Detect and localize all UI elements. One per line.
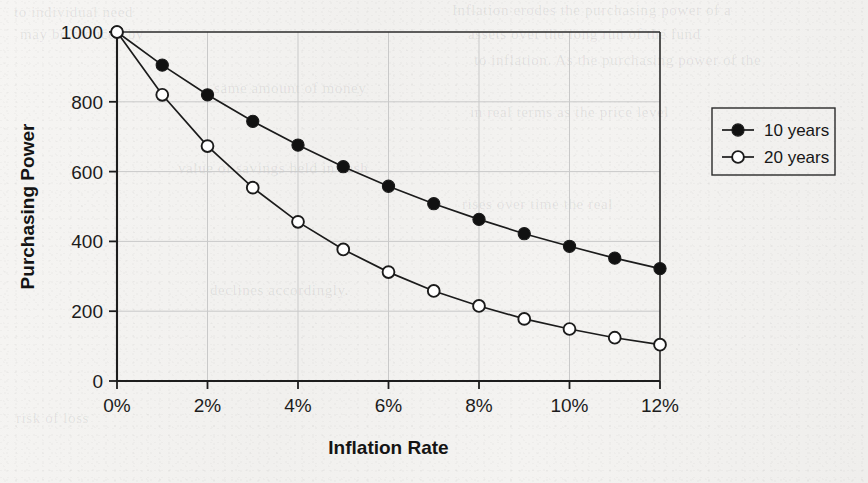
data-point-marker [156, 89, 168, 101]
legend-marker [732, 151, 744, 163]
legend-label: 20 years [764, 148, 829, 167]
data-point-marker [473, 213, 485, 225]
y-axis-tick-labels: 02004006008001000 [61, 22, 103, 392]
x-tick-label: 4% [284, 395, 312, 416]
x-tick-label: 0% [103, 395, 131, 416]
y-tick-label: 200 [71, 301, 103, 322]
data-point-marker [654, 263, 666, 275]
data-point-marker [292, 216, 304, 228]
data-point-marker [111, 26, 123, 38]
y-tick-label: 800 [71, 92, 103, 113]
data-point-marker [247, 115, 259, 127]
y-tick-label: 600 [71, 162, 103, 183]
x-tick-label: 6% [375, 395, 403, 416]
chart-legend: 10 years20 years [712, 108, 835, 175]
x-tick-label: 12% [641, 395, 679, 416]
data-point-marker [382, 180, 394, 192]
data-point-marker [202, 140, 214, 152]
y-axis-title: Purchasing Power [17, 123, 38, 289]
data-point-marker [156, 59, 168, 71]
data-point-marker [383, 266, 395, 278]
y-axis-ticks [109, 32, 117, 381]
data-point-marker [337, 244, 349, 256]
data-point-marker [518, 228, 530, 240]
data-point-marker [247, 182, 259, 194]
data-point-marker [564, 323, 576, 335]
legend-marker [732, 124, 744, 136]
data-point-marker [428, 285, 440, 297]
data-point-marker [654, 339, 666, 351]
x-axis-tick-labels: 0%2%4%6%8%10%12% [103, 395, 679, 416]
data-point-marker [337, 161, 349, 173]
gridlines [117, 32, 660, 381]
data-point-marker [201, 89, 213, 101]
data-point-marker [428, 198, 440, 210]
legend-label: 10 years [764, 121, 829, 140]
data-point-marker [609, 252, 621, 264]
y-tick-label: 1000 [61, 22, 103, 43]
x-axis-ticks [117, 381, 660, 389]
data-point-marker [292, 139, 304, 151]
x-tick-label: 2% [194, 395, 222, 416]
data-point-marker [518, 313, 530, 325]
x-tick-label: 10% [550, 395, 588, 416]
x-tick-label: 8% [465, 395, 493, 416]
y-tick-label: 400 [71, 231, 103, 252]
purchasing-power-chart: 02004006008001000 0%2%4%6%8%10%12% Purch… [0, 0, 868, 483]
y-tick-label: 0 [92, 371, 103, 392]
data-point-marker [563, 240, 575, 252]
data-point-marker [473, 300, 485, 312]
data-point-marker [609, 332, 621, 344]
x-axis-title: Inflation Rate [328, 437, 448, 458]
